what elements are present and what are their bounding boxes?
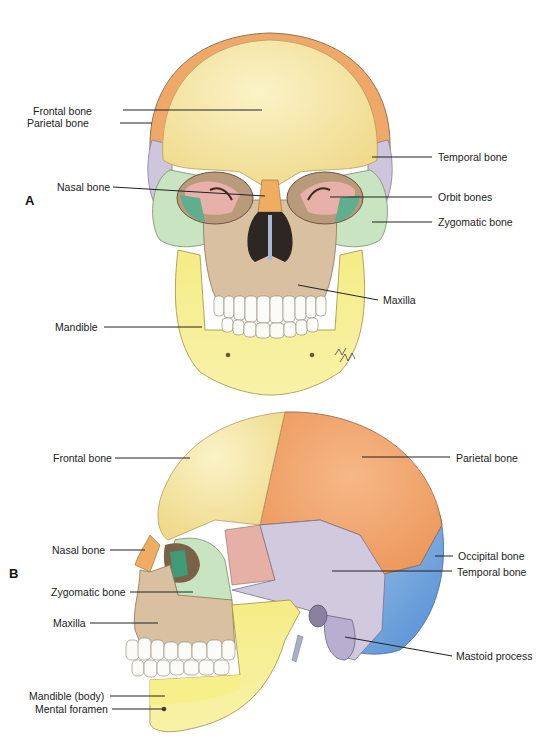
label-parietal-bone-a: Parietal bone (27, 117, 89, 129)
nasal-bone-lateral (135, 535, 160, 572)
label-zygomatic-bone-a: Zygomatic bone (438, 216, 513, 228)
label-mandible-body-b: Mandible (body) (29, 690, 104, 702)
label-occipital-bone-b: Occipital bone (458, 550, 525, 562)
label-temporal-bone-a: Temporal bone (438, 151, 507, 163)
label-maxilla-a: Maxilla (383, 294, 416, 306)
label-parietal-bone-b: Parietal bone (456, 452, 518, 464)
teeth-anterior (214, 296, 326, 338)
panel-label-a: A (25, 193, 34, 208)
label-nasal-bone-a: Nasal bone (57, 181, 110, 193)
panel-label-b: B (9, 566, 18, 581)
label-temporal-bone-b: Temporal bone (457, 566, 526, 578)
label-mental-foramen-b: Mental foramen (35, 703, 108, 715)
skull-anterior-view (148, 33, 392, 395)
teeth-lateral (126, 638, 235, 677)
label-frontal-bone-b: Frontal bone (53, 452, 112, 464)
skull-lateral-view (126, 412, 444, 732)
label-zygomatic-bone-b: Zygomatic bone (51, 586, 126, 598)
label-mastoid-process-b: Mastoid process (456, 650, 532, 662)
label-mandible-a: Mandible (55, 321, 98, 333)
label-orbit-bones-a: Orbit bones (438, 191, 492, 203)
label-maxilla-b: Maxilla (53, 617, 86, 629)
label-frontal-bone-a: Frontal bone (33, 105, 92, 117)
label-nasal-bone-b: Nasal bone (52, 544, 105, 556)
